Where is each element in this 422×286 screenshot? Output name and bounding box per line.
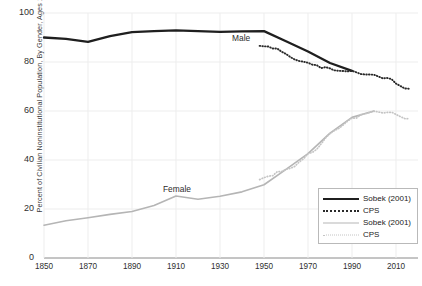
annotation-female: Female xyxy=(163,184,191,194)
legend-item-1[interactable]: CPS xyxy=(323,205,413,217)
x-tick-2010: 2010 xyxy=(376,262,416,271)
legend-swatch-icon xyxy=(323,207,359,215)
chart-legend: Sobek (2001)CPSSobek (2001)CPS xyxy=(318,188,418,244)
series-line-1 xyxy=(260,46,410,89)
x-tick-1930: 1930 xyxy=(200,262,240,271)
y-tick-40: 40 xyxy=(0,154,34,164)
legend-swatch-icon xyxy=(323,195,359,203)
annotation-male: Male xyxy=(232,33,250,43)
legend-item-0[interactable]: Sobek (2001) xyxy=(323,193,413,205)
x-tick-1970: 1970 xyxy=(288,262,328,271)
legend-item-2[interactable]: Sobek (2001) xyxy=(323,217,413,229)
legend-label: Sobek (2001) xyxy=(363,195,411,203)
y-tick-60: 60 xyxy=(0,105,34,115)
y-tick-20: 20 xyxy=(0,203,34,213)
y-tick-0: 0 xyxy=(0,252,34,262)
y-axis-label: Percent of Civilian Noninstitutional Pop… xyxy=(35,0,44,226)
y-tick-100: 100 xyxy=(0,7,34,17)
x-tick-1910: 1910 xyxy=(156,262,196,271)
legend-label: CPS xyxy=(363,231,379,239)
legend-label: CPS xyxy=(363,207,379,215)
legend-swatch-icon xyxy=(323,219,359,227)
series-line-3 xyxy=(260,111,410,179)
y-tick-80: 80 xyxy=(0,56,34,66)
legend-swatch-icon xyxy=(323,231,359,239)
x-tick-1850: 1850 xyxy=(24,262,64,271)
legend-label: Sobek (2001) xyxy=(363,219,411,227)
x-tick-1890: 1890 xyxy=(112,262,152,271)
series-line-0 xyxy=(44,30,352,70)
legend-item-3[interactable]: CPS xyxy=(323,229,413,241)
x-tick-1870: 1870 xyxy=(68,262,108,271)
x-tick-1950: 1950 xyxy=(244,262,284,271)
x-tick-1990: 1990 xyxy=(332,262,372,271)
chart-container: Percent of Civilian Noninstitutional Pop… xyxy=(0,0,422,286)
